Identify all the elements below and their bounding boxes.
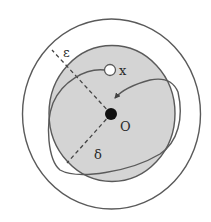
stability-diagram: ε x O δ: [0, 0, 211, 222]
origin-dot: [105, 108, 117, 120]
start-point-label: x: [119, 63, 127, 78]
delta-label: δ: [94, 147, 102, 162]
start-point: [105, 65, 116, 76]
origin-label: O: [120, 119, 131, 134]
diagram-canvas: ε x O δ: [0, 0, 211, 222]
epsilon-label: ε: [63, 45, 70, 60]
